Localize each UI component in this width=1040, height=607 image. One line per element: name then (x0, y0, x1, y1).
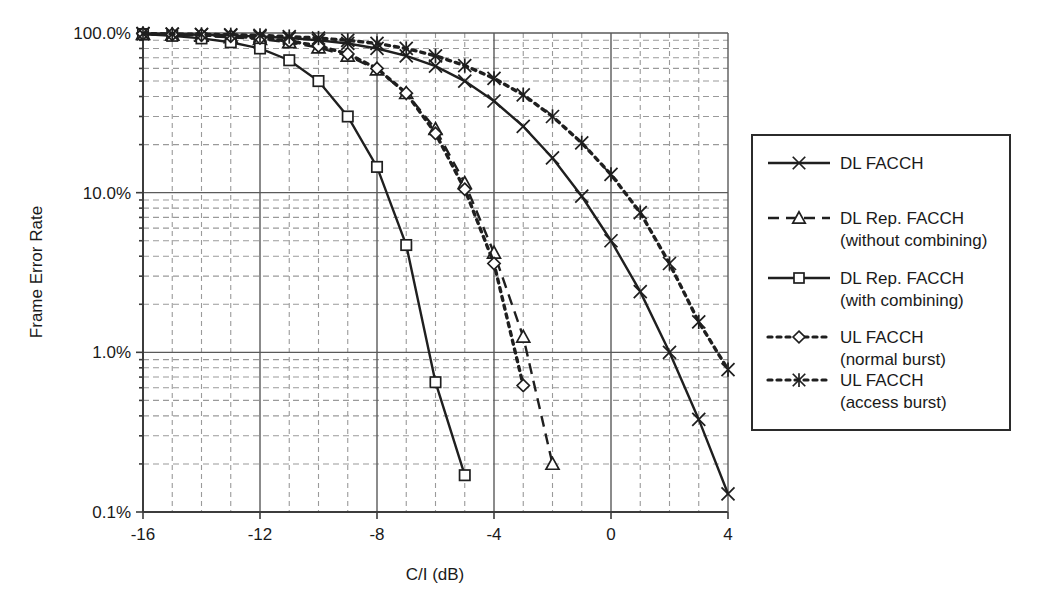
marker-square (794, 273, 804, 283)
x-tick-label: 4 (723, 525, 732, 544)
marker-square (343, 111, 353, 121)
marker-square (284, 55, 294, 65)
legend-label-line2: (normal burst) (840, 350, 946, 369)
legend-label-line1: UL FACCH (840, 371, 923, 390)
legend-label-line2: (without combining) (840, 231, 987, 250)
legend-label-line2: (access burst) (840, 393, 947, 412)
chart-figure: -16-12-8-404 100.0%10.0%1.0%0.1% C/I (dB… (0, 0, 1040, 607)
legend-label-line1: DL FACCH (840, 154, 923, 173)
x-tick-label: -4 (486, 525, 501, 544)
y-tick-label: 10.0% (83, 184, 131, 203)
legend-label-line2: (with combining) (840, 291, 964, 310)
marker-square (313, 76, 323, 86)
legend-label-line1: DL Rep. FACCH (840, 209, 964, 228)
x-tick-label: -8 (369, 525, 384, 544)
chart-legend: DL FACCHDL Rep. FACCH(without combining)… (752, 135, 1010, 430)
x-tick-label: -12 (248, 525, 273, 544)
marker-square (430, 377, 440, 387)
y-tick-label: 0.1% (92, 503, 131, 522)
frame-error-rate-chart: -16-12-8-404 100.0%10.0%1.0%0.1% C/I (dB… (0, 0, 1040, 607)
marker-square (460, 470, 470, 480)
x-axis-title: C/I (dB) (406, 565, 465, 584)
y-tick-label: 1.0% (92, 343, 131, 362)
legend-label-line1: DL Rep. FACCH (840, 269, 964, 288)
x-tick-label: 0 (606, 525, 615, 544)
marker-square (372, 162, 382, 172)
y-axis-title: Frame Error Rate (27, 206, 46, 338)
y-tick-label: 100.0% (73, 24, 131, 43)
marker-square (401, 240, 411, 250)
legend-marker (794, 273, 804, 283)
x-tick-label: -16 (131, 525, 156, 544)
legend-label-line1: UL FACCH (840, 328, 923, 347)
